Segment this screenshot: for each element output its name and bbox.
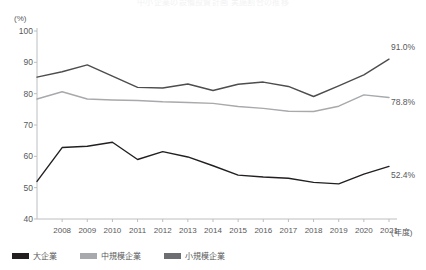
x-tick-label: 2014 — [204, 226, 222, 235]
x-tick-label: 2017 — [280, 226, 298, 235]
x-tick-label: 2018 — [305, 226, 323, 235]
chart-figure: 中小企業の設備投資計画 実施割合の推移 (%) 405060708090100 … — [0, 0, 426, 270]
legend-swatch-large — [12, 253, 29, 259]
x-tick-label: 2011 — [129, 226, 146, 235]
y-tick-label: 70 — [11, 120, 33, 130]
y-tick-label: 80 — [11, 89, 33, 99]
x-tick-label: 2013 — [179, 226, 197, 235]
y-tick-label: 40 — [11, 214, 33, 224]
y-tick-label: 60 — [11, 151, 33, 161]
legend-swatch-small — [164, 253, 181, 259]
x-tick-label: 2012 — [154, 226, 172, 235]
series-end-label: 91.0% — [391, 42, 415, 52]
x-tick-label: 2016 — [254, 226, 272, 235]
x-tick-label: 2020 — [355, 226, 373, 235]
legend-item-medium[interactable]: 中規模企業 — [80, 250, 142, 261]
legend-swatch-medium — [80, 253, 97, 259]
legend-label-medium: 中規模企業 — [101, 250, 142, 261]
legend-item-large[interactable]: 大企業 — [12, 250, 58, 261]
y-tick-label: 50 — [11, 183, 33, 193]
legend-label-small: 小規模企業 — [185, 250, 226, 261]
legend-label-large: 大企業 — [33, 250, 58, 261]
series-end-label: 78.8% — [391, 97, 415, 107]
x-tick-label: 2015 — [229, 226, 247, 235]
x-tick-label: 2010 — [104, 226, 122, 235]
x-tick-label: 2009 — [78, 226, 96, 235]
x-axis-unit-label: (年度) — [391, 226, 412, 237]
y-tick-label: 100 — [11, 26, 33, 36]
legend-item-small[interactable]: 小規模企業 — [164, 250, 226, 261]
chart-legend: 大企業 中規模企業 小規模企業 — [12, 250, 248, 261]
x-tick-label: 2008 — [53, 226, 71, 235]
y-tick-label: 90 — [11, 57, 33, 67]
series-end-label: 52.4% — [391, 170, 415, 180]
x-tick-label: 2019 — [330, 226, 348, 235]
